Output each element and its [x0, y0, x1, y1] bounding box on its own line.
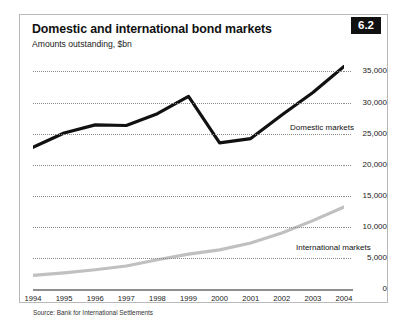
figure-header: Domestic and international bond markets …	[20, 15, 387, 59]
page-title: Domestic and international bond markets	[32, 22, 272, 36]
gridline	[33, 227, 344, 228]
gridline	[33, 165, 344, 166]
x-axis-tick-label: 1997	[118, 294, 135, 303]
y-axis-tick	[344, 134, 351, 135]
series-label-international: International markets	[296, 243, 371, 252]
y-axis-tick	[344, 289, 353, 291]
y-axis-tick-label: 5,000	[357, 253, 387, 262]
y-axis-tick	[344, 103, 351, 104]
series-line-domestic	[33, 66, 344, 147]
y-axis: 05,00010,00015,00020,00025,00030,00035,0…	[344, 59, 388, 289]
x-axis-labels: 1994199519961997199819992000200120022003…	[33, 294, 344, 308]
y-axis-tick	[344, 71, 351, 72]
figure-subtitle: Amounts outstanding, $bn	[32, 39, 132, 49]
x-axis-tick-label: 2003	[304, 294, 321, 303]
y-axis-tick-label: 10,000	[357, 222, 387, 231]
gridline	[33, 103, 344, 104]
series-line-international	[33, 207, 344, 275]
x-axis-tick-label: 1996	[87, 294, 104, 303]
x-axis-tick-label: 2002	[273, 294, 290, 303]
gridline	[33, 71, 344, 72]
gridline	[33, 196, 344, 197]
chart-lines-svg	[33, 59, 344, 289]
x-axis-tick-label: 1995	[56, 294, 73, 303]
source-note: Source: Bank for International Settlemen…	[33, 309, 153, 316]
x-axis-line	[33, 289, 344, 291]
y-axis-tick-label: 25,000	[357, 129, 387, 138]
y-axis-tick	[344, 227, 351, 228]
y-axis-tick-label: 20,000	[357, 160, 387, 169]
x-axis-tick-label: 2000	[211, 294, 228, 303]
y-axis-tick-label: 15,000	[357, 191, 387, 200]
y-axis-tick-label: 35,000	[357, 66, 387, 75]
figure-number-badge: 6.2	[351, 17, 381, 34]
y-axis-tick	[344, 258, 351, 259]
chart-plot-area	[33, 59, 344, 289]
y-axis-tick	[344, 165, 351, 166]
x-axis-tick-label: 1998	[149, 294, 166, 303]
figure-container: Domestic and international bond markets …	[19, 14, 388, 303]
gridline	[33, 258, 344, 259]
y-axis-tick-label: 30,000	[357, 98, 387, 107]
series-label-domestic: Domestic markets	[290, 123, 354, 132]
x-axis-tick-label: 2004	[336, 294, 353, 303]
x-axis-tick-label: 2001	[242, 294, 259, 303]
x-axis-tick-label: 1994	[25, 294, 42, 303]
y-axis-tick-label: 0	[357, 284, 387, 293]
y-axis-tick	[344, 196, 351, 197]
gridline	[33, 134, 344, 135]
x-axis-tick-label: 1999	[180, 294, 197, 303]
